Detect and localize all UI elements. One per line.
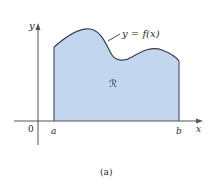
y-axis-label: y: [28, 20, 35, 31]
region-fill: [54, 29, 179, 121]
x-axis-arrow-icon: [196, 119, 203, 124]
y-axis-arrow-icon: [36, 23, 41, 30]
right-bound-label: b: [176, 126, 182, 136]
area-under-curve-diagram: y y = f(x) ℛ 0 a b x (a): [0, 0, 215, 184]
figure-caption: (a): [100, 167, 112, 177]
left-bound-label: a: [51, 126, 56, 136]
origin-label: 0: [28, 124, 34, 134]
x-axis-label: x: [196, 124, 201, 134]
region-label: ℛ: [109, 78, 117, 89]
curve-label: y = f(x): [121, 28, 160, 39]
label-pointer-line: [108, 34, 120, 41]
